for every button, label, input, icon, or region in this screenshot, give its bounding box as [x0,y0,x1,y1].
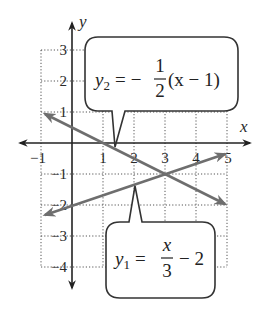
callout-y1-tail: − 2 [179,248,204,269]
y-tick: −4 [51,259,67,275]
y-tick: 3 [60,42,68,58]
callout-y2-equation: y2=− [93,69,141,93]
graph-figure: x y −1 1 2 3 4 5 3 2 1 −1 −2 −3 −4 y2=− … [0,0,269,314]
x-tick: 1 [99,150,107,166]
callout-y2: y2=− 1 2 (x − 1) [85,37,238,147]
x-tick: −1 [30,150,46,166]
x-tick: 3 [161,150,169,166]
callout-y2-frac-den: 2 [155,80,165,101]
callout-y2-frac-num: 1 [155,55,165,76]
y-axis-label: y [77,12,87,31]
y-tick: −3 [51,228,67,244]
x-tick: 5 [224,150,232,166]
y-tick: 2 [60,73,68,89]
callout-y1-frac-den: 3 [162,260,172,281]
x-axis-label: x [239,117,248,136]
callout-y1: y1= x 3 − 2 [106,186,215,298]
callout-y2-tail: (x − 1) [168,69,220,91]
y-tick: −1 [51,166,67,182]
y-tick: 1 [60,104,68,120]
y-tick-labels: 3 2 1 −1 −2 −3 −4 [51,42,67,275]
callout-y1-frac-num: x [162,234,172,255]
